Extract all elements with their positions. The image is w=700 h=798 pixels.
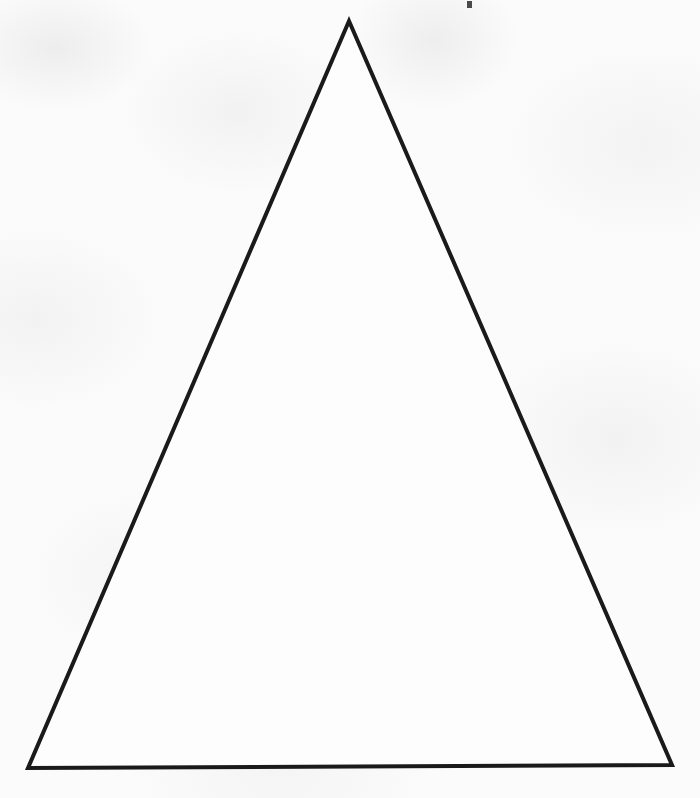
triangle-figure-canvas <box>0 0 700 798</box>
figure-page <box>0 0 700 798</box>
triangle-shape <box>28 21 672 768</box>
scan-speck-artifact <box>467 1 472 8</box>
